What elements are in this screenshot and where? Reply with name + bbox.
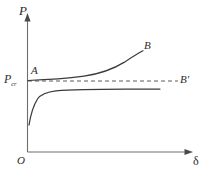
critical-load-subscript: cr	[11, 80, 16, 87]
upper-branch-label: B	[144, 40, 151, 51]
y-axis-label: P	[19, 4, 27, 17]
plot-canvas	[0, 0, 210, 178]
x-axis-label: δ	[193, 155, 199, 167]
origin-label: O	[17, 155, 25, 166]
critical-load-label: Pcr	[4, 73, 16, 88]
x-axis-arrowhead	[185, 149, 194, 155]
lower-branch-curve	[29, 89, 160, 125]
lower-branch-label: B'	[180, 74, 189, 85]
bifurcation-point-label: A	[31, 65, 38, 76]
upper-branch-curve	[28, 51, 143, 81]
figure-container: P Pcr A B B' O δ	[0, 0, 210, 178]
